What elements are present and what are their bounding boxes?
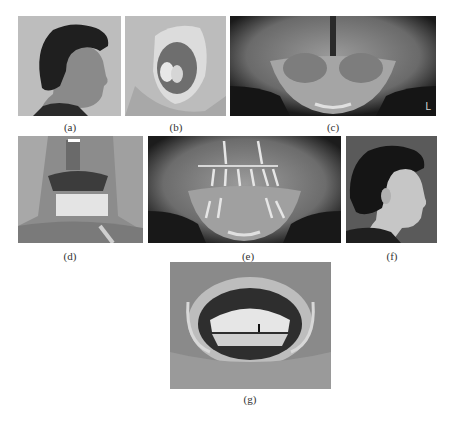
postoperative-profile-image bbox=[346, 136, 437, 243]
caption-g: (g) bbox=[238, 393, 262, 405]
panel-b-intraoral-view bbox=[125, 16, 226, 116]
panel-g-final-intraoral-view bbox=[170, 262, 331, 389]
panel-f-postoperative-profile bbox=[346, 136, 437, 243]
profile-image bbox=[18, 16, 121, 116]
intraoperative-image bbox=[18, 136, 143, 243]
radiograph-image bbox=[230, 16, 436, 116]
caption-f: (f) bbox=[380, 250, 404, 262]
caption-e: (e) bbox=[236, 250, 260, 262]
caption-c: (c) bbox=[321, 121, 345, 133]
intraoral-image bbox=[125, 16, 226, 116]
caption-b: (b) bbox=[164, 121, 188, 133]
side-marker-L: L bbox=[425, 101, 431, 112]
radiograph-implants-image bbox=[148, 136, 341, 243]
final-intraoral-image bbox=[170, 262, 331, 389]
panel-c-panoramic-radiograph: L bbox=[230, 16, 436, 116]
caption-a: (a) bbox=[58, 121, 82, 133]
panel-d-intraoperative-view bbox=[18, 136, 143, 243]
panel-a-profile-photo bbox=[18, 16, 121, 116]
panel-e-postoperative-radiograph bbox=[148, 136, 341, 243]
caption-d: (d) bbox=[58, 250, 82, 262]
